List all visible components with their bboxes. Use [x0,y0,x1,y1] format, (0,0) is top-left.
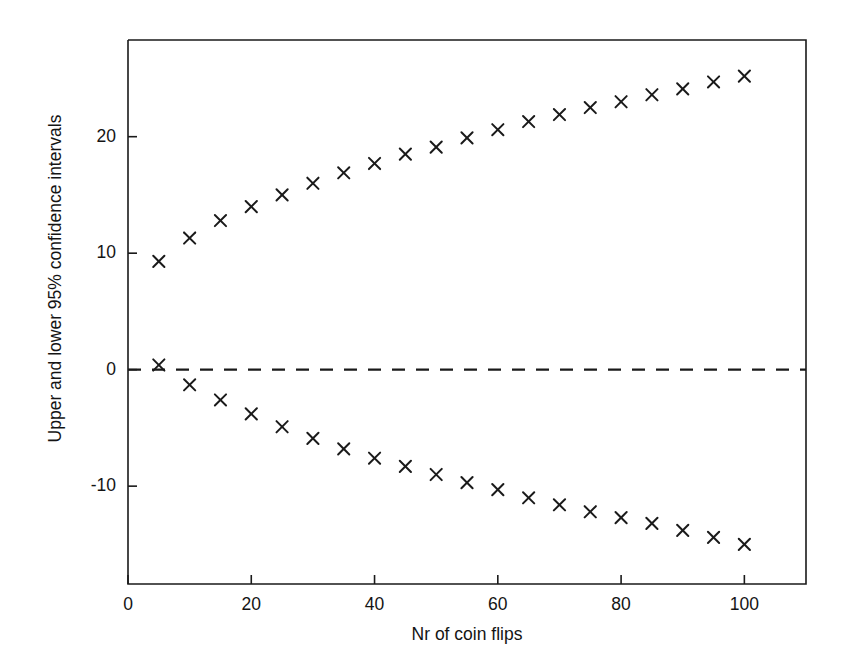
data-point-marker [276,421,287,432]
data-point-marker [677,83,688,94]
data-point-marker [369,158,380,169]
data-point-marker [585,506,596,517]
y-axis-label-container: Upper and lower 95% confidence intervals [0,0,60,584]
data-point-marker [646,518,657,529]
data-point-marker [246,408,257,419]
series-lower-markers [153,359,750,550]
data-point-marker [307,433,318,444]
x-tick-label: 60 [468,594,528,615]
axes-frame [128,40,806,584]
data-point-marker [246,201,257,212]
data-point-marker [615,96,626,107]
data-point-marker [646,89,657,100]
data-point-marker [554,499,565,510]
data-point-marker [492,484,503,495]
y-tick-label: -10 [52,475,116,496]
y-tick-label: 10 [52,242,116,263]
data-point-marker [276,189,287,200]
data-point-marker [215,215,226,226]
y-axis-label: Upper and lower 95% confidence intervals [45,19,66,539]
data-point-marker [677,525,688,536]
x-tick-label: 20 [221,594,281,615]
x-tick-label: 0 [98,594,158,615]
data-point-marker [492,124,503,135]
data-point-marker [431,469,442,480]
data-point-marker [615,512,626,523]
data-point-marker [153,256,164,267]
data-point-marker [523,492,534,503]
data-point-marker [739,71,750,82]
data-point-marker [400,461,411,472]
x-axis-ticks [128,575,744,584]
data-point-marker [461,477,472,488]
data-point-marker [431,142,442,153]
data-point-marker [400,149,411,160]
y-tick-label: 0 [52,359,116,380]
data-point-marker [369,453,380,464]
y-tick-label: 20 [52,126,116,147]
scatter-plot [0,0,841,670]
data-point-marker [184,232,195,243]
data-point-marker [708,532,719,543]
data-point-marker [708,76,719,87]
data-point-marker [585,102,596,113]
data-point-marker [184,379,195,390]
data-point-marker [554,109,565,120]
data-point-marker [307,178,318,189]
x-tick-label: 100 [714,594,774,615]
data-point-marker [215,394,226,405]
y-axis-ticks [128,137,137,486]
data-point-marker [523,116,534,127]
data-point-marker [461,132,472,143]
data-point-marker [338,443,349,454]
data-point-marker [739,539,750,550]
data-point-marker [338,167,349,178]
x-axis-label: Nr of coin flips [128,624,806,645]
series-upper-markers [153,71,750,267]
figure-canvas: Upper and lower 95% confidence intervals… [0,0,841,670]
x-tick-label: 40 [345,594,405,615]
x-tick-label: 80 [591,594,651,615]
